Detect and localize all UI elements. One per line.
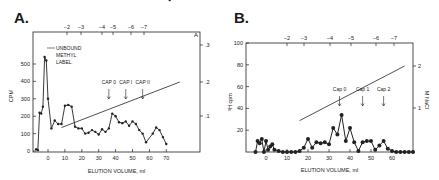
data-point bbox=[118, 121, 120, 123]
x-tick-label: 20 bbox=[305, 155, 311, 161]
data-point bbox=[152, 132, 154, 134]
data-point bbox=[335, 133, 339, 137]
y2-tick-label: .3 bbox=[205, 42, 210, 48]
x-tick-label: 40 bbox=[347, 155, 353, 161]
data-point bbox=[403, 150, 407, 154]
data-point bbox=[373, 148, 377, 152]
data-point bbox=[155, 126, 157, 128]
data-point bbox=[42, 105, 44, 107]
salt-gradient-line bbox=[300, 66, 405, 121]
data-line bbox=[256, 115, 414, 152]
data-point bbox=[258, 141, 262, 145]
data-point bbox=[310, 146, 314, 150]
y-axis-label: CPM bbox=[8, 89, 14, 102]
y-tick-label: 500 bbox=[21, 61, 30, 67]
data-point bbox=[104, 131, 106, 133]
data-point bbox=[165, 143, 167, 145]
plot-frame bbox=[246, 43, 413, 152]
data-point bbox=[50, 127, 52, 129]
y-tick-label: 60 bbox=[237, 84, 243, 90]
data-point bbox=[125, 120, 127, 122]
data-point bbox=[369, 139, 373, 143]
cap-annotation-0: Cap 0 bbox=[333, 86, 347, 92]
data-point bbox=[254, 150, 258, 154]
x-tick-label: 20 bbox=[79, 155, 85, 161]
x-axis-label: ELUTION VOLUME, ml bbox=[301, 167, 358, 173]
data-point bbox=[128, 125, 130, 127]
top-tick-label: −5 bbox=[348, 35, 354, 41]
y-tick-label: 40 bbox=[237, 105, 243, 111]
data-point bbox=[289, 150, 293, 154]
data-point bbox=[356, 149, 360, 153]
data-point bbox=[361, 140, 365, 144]
data-point bbox=[260, 137, 264, 141]
top-tick-label: −2 bbox=[64, 24, 70, 30]
cap-annotation-2: Cap 2 bbox=[377, 86, 391, 92]
y-tick-label: 200 bbox=[21, 113, 30, 119]
data-point bbox=[67, 104, 69, 106]
data-point bbox=[98, 133, 100, 135]
data-point bbox=[40, 112, 42, 114]
data-point bbox=[281, 150, 285, 154]
data-point bbox=[47, 98, 49, 100]
top-tick-label: −5 bbox=[110, 24, 116, 30]
data-point bbox=[344, 139, 348, 143]
data-point bbox=[91, 129, 93, 131]
data-point bbox=[101, 128, 103, 130]
data-point bbox=[141, 132, 143, 134]
data-point bbox=[64, 105, 66, 107]
data-point bbox=[37, 149, 39, 151]
data-point bbox=[340, 113, 344, 117]
data-point bbox=[43, 56, 45, 58]
data-point bbox=[302, 146, 306, 150]
unbound-label-line3: LABEL bbox=[56, 59, 72, 65]
data-point bbox=[272, 148, 276, 152]
cap-annotation-0: CAP 0 bbox=[102, 79, 117, 85]
data-point bbox=[138, 129, 140, 131]
y-axis-label: ³H cpm bbox=[227, 93, 233, 111]
x-axis-label: ELUTION VOLUME, ml bbox=[88, 168, 145, 174]
data-point bbox=[87, 132, 89, 134]
data-line bbox=[36, 57, 166, 150]
data-point bbox=[158, 129, 160, 131]
data-point bbox=[377, 143, 381, 147]
data-point bbox=[319, 141, 323, 145]
data-point bbox=[277, 149, 281, 153]
data-point bbox=[365, 139, 369, 143]
x-tick-label: 60 bbox=[389, 155, 395, 161]
x-tick-label: 50 bbox=[129, 155, 135, 161]
data-point bbox=[411, 150, 415, 154]
data-point bbox=[285, 150, 289, 154]
data-point bbox=[331, 126, 335, 130]
unbound-label-line1: UNBOUND bbox=[56, 45, 82, 51]
data-point bbox=[398, 150, 402, 154]
top-tick-label: −3 bbox=[78, 24, 84, 30]
data-point bbox=[298, 149, 302, 153]
data-point bbox=[270, 142, 274, 146]
top-tick-label: −6 bbox=[128, 24, 134, 30]
y2-tick-label: .2 bbox=[205, 79, 210, 85]
data-point bbox=[306, 137, 310, 141]
data-point bbox=[94, 131, 96, 133]
y2-axis-label: M NaCl bbox=[424, 91, 430, 109]
data-point bbox=[262, 150, 266, 154]
x-tick-label: 60 bbox=[146, 155, 152, 161]
data-point bbox=[54, 119, 56, 121]
data-point bbox=[323, 140, 327, 144]
cap-annotation-1: CAP I bbox=[119, 79, 132, 85]
data-point bbox=[394, 150, 398, 154]
y-tick-label: 80 bbox=[237, 62, 243, 68]
data-point bbox=[108, 127, 110, 129]
data-point bbox=[162, 136, 164, 138]
top-tick-label: −2 bbox=[284, 35, 290, 41]
y-tick-label: 100 bbox=[21, 131, 30, 137]
data-point bbox=[386, 147, 390, 151]
top-tick-label: −7 bbox=[141, 24, 147, 30]
data-point bbox=[135, 123, 137, 125]
chart-panel-a bbox=[33, 0, 203, 152]
data-point bbox=[145, 141, 147, 143]
data-point bbox=[407, 150, 411, 154]
cap-annotation-1: Cap 1 bbox=[356, 86, 370, 92]
data-point bbox=[352, 140, 356, 144]
data-point bbox=[327, 142, 331, 146]
